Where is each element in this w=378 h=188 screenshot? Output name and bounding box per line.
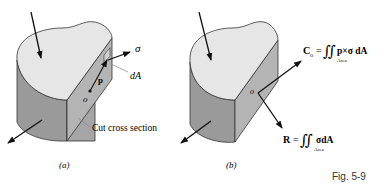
dA-label: dA — [130, 70, 142, 81]
R-equals: = — [293, 134, 299, 145]
panel-b-label: (b) — [226, 160, 237, 170]
cut-cross-section-label: Cut cross section — [92, 123, 157, 133]
R-integral: ∬ — [300, 132, 313, 148]
origin-label-b: o — [250, 87, 254, 96]
Co-integrand: p×σ dA — [337, 46, 368, 56]
origin-point-a — [88, 89, 91, 92]
panel-b-body — [190, 22, 278, 143]
Co-integral: ∬ — [323, 43, 336, 59]
Co-equals: = — [316, 45, 322, 56]
resultant-equation: R = ∬ σdA Area — [283, 132, 333, 152]
panel-a-label: (a) — [59, 160, 70, 170]
figure-canvas: σ dA p o Cut cross section (a) o C o = ∬… — [0, 0, 378, 188]
dA-leader — [111, 64, 128, 72]
R-symbol: R — [283, 134, 291, 145]
p-label: p — [98, 75, 103, 85]
Co-subscript: o — [310, 52, 313, 58]
R-domain: Area — [314, 147, 324, 152]
moment-equation: C o = ∬ p×σ dA Area — [303, 43, 368, 63]
R-integrand: σdA — [316, 135, 333, 145]
figure-caption: Fig. 5-9 — [332, 171, 366, 182]
Co-domain: Area — [337, 58, 347, 63]
resultant-vector-R — [258, 93, 282, 128]
sigma-label: σ — [135, 42, 141, 54]
origin-label-a: o — [83, 94, 88, 104]
